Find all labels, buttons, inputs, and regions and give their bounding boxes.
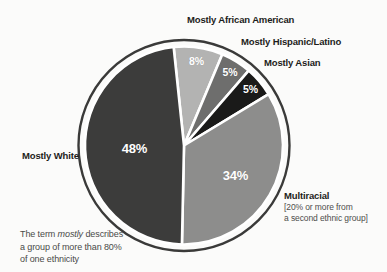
slice-label-multiracial: Multiracial [20% or more from a second e… — [284, 190, 368, 224]
slice-label-mostly-african-american: Mostly African American — [187, 14, 294, 25]
multiracial-note-line2: a second ethnic group] — [284, 213, 368, 224]
ethnicity-pie-figure: Mostly African American Mostly Hispanic/… — [0, 0, 387, 272]
footnote-line1-post: describes — [83, 229, 123, 239]
slice-label-mostly-hispanic-latino: Mostly Hispanic/Latino — [241, 36, 341, 47]
footnote-line2: a group of more than 80% — [20, 241, 123, 254]
multiracial-note-line1: [20% or more from — [284, 202, 368, 213]
footnote-line1-italic: mostly — [58, 229, 83, 239]
multiracial-title: Multiracial — [284, 190, 368, 201]
footnote-line1: The term mostly describes — [20, 228, 123, 241]
footnote-line3: of one ethnicity — [20, 253, 123, 266]
slice-label-mostly-asian: Mostly Asian — [264, 57, 320, 68]
slice-pct-label-mostly-hispanic-latino: 5% — [223, 66, 238, 78]
slice-pct-label-mostly-asian: 5% — [243, 83, 258, 95]
slice-pct-label-multiracial: 34% — [223, 168, 248, 183]
slice-pct-label-mostly-african-american: 8% — [189, 55, 204, 67]
slice-label-mostly-white: Mostly White — [22, 150, 79, 161]
footnote-line1-pre: The term — [20, 229, 58, 239]
footnote: The term mostly describes a group of mor… — [20, 228, 123, 266]
slice-pct-label-mostly-white: 48% — [122, 140, 147, 155]
